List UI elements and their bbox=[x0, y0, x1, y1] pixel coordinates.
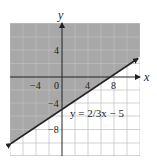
x-axis-label: x bbox=[143, 70, 150, 84]
tick-y--8: −8 bbox=[48, 124, 59, 135]
tick-y-4: 4 bbox=[54, 45, 59, 56]
tick-x-8: 8 bbox=[111, 80, 116, 91]
tick-x--4: −4 bbox=[30, 80, 41, 91]
y-axis-label: y bbox=[57, 8, 64, 22]
tick-x-0: 0 bbox=[54, 80, 59, 91]
equation-label: y = 2/3x − 5 bbox=[70, 107, 124, 119]
tick-x-4: 4 bbox=[85, 80, 90, 91]
tick-y--4: −4 bbox=[48, 98, 59, 109]
graph: y x −4 0 4 8 4 −4 −8 y = 2/3x − 5 bbox=[0, 0, 157, 166]
